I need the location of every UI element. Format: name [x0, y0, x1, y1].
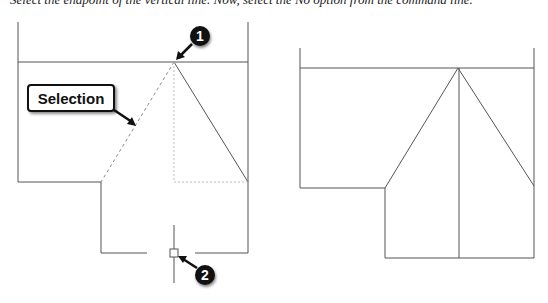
cad-drawings: [0, 0, 548, 303]
crosshair-cursor: [170, 225, 178, 283]
selected-lines: [101, 62, 174, 182]
drawing-before: [18, 22, 248, 283]
drawing-after: [300, 48, 534, 258]
step-marker-1: 1: [190, 26, 210, 46]
step-marker-2: 2: [195, 265, 215, 285]
selection-callout: Selection: [27, 84, 115, 112]
callout-arrows: [114, 44, 197, 268]
